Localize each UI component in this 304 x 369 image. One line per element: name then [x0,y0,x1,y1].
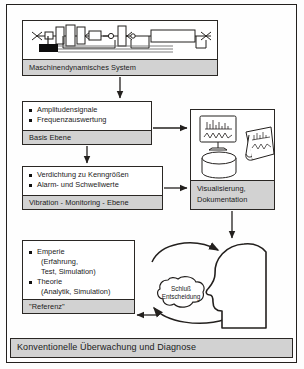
figure-root: Maschinendynamisches System Amplitudensi… [0,0,304,369]
visualization-icons [191,110,276,180]
referenz-label: "Referenz" [23,299,134,313]
vibration-item-0: Verdichtung zu Kenngrößen [29,170,157,180]
referenz-item-0-bullet: Emperie [29,247,129,257]
visualisierung-label-line2: Dokumentation [197,195,247,204]
loop-arrow-bottom [154,308,226,323]
vibration-items: Verdichtung zu Kenngrößen Alarm- und Sch… [23,167,162,195]
referenz-items: Emperie (Erfahrung, Test, Simulation) Th… [23,241,134,299]
vibration-monitoring-block: Verdichtung zu Kenngrößen Alarm- und Sch… [22,166,163,210]
basis-items: Amplitudensignale Frequenzauswertung [23,102,151,130]
visualisierung-label: Visualisierung, Dokumentation [191,180,274,209]
referenz-item-0-sub-1: Test, Simulation) [29,267,129,277]
basis-item-1: Frequenzauswertung [29,115,146,125]
human-head-profile-icon [206,244,266,328]
referenz-item-0-sub-0: (Erfahrung, [29,257,129,267]
machine-rotor-schematic-icon [23,21,219,59]
foundation-block-icon [39,44,58,52]
loop-arrow-top [152,243,218,262]
figure-caption: Konventionelle Überwachung und Diagnose [10,338,293,358]
database-cylinder-icon [202,152,236,178]
vibration-monitoring-label: Vibration - Monitoring - Ebene [23,195,162,209]
basis-ebene-block: Amplitudensignale Frequenzauswertung Bas… [22,101,152,145]
machine-diagram-area [23,21,217,59]
referenz-item-1-sub-0: (Analytik, Simulation) [29,287,129,297]
referenz-item-1-bullet: Theorie [29,277,129,287]
cloud-line-2: Entscheidung [162,293,201,301]
vibration-item-1: Alarm- und Schwellwerte [29,180,157,190]
visualisierung-label-line1: Visualisierung, [197,184,246,193]
paper-chart-roll-icon [246,127,274,160]
monitor-chart-icon [200,116,236,150]
machine-system-block: Maschinendynamisches System [22,20,218,76]
machine-system-label: Maschinendynamisches System [23,59,217,75]
visual-icons-area [191,110,274,180]
cloud-line-1: Schluß [171,285,191,292]
basis-item-0: Amplitudensignale [29,105,146,115]
decision-loop-group: Schluß Entscheidung [148,232,278,328]
thought-cloud [158,277,204,308]
visualisierung-block: Visualisierung, Dokumentation [190,109,275,210]
referenz-block: Emperie (Erfahrung, Test, Simulation) Th… [22,240,135,314]
basis-ebene-label: Basis Ebene [23,130,151,144]
